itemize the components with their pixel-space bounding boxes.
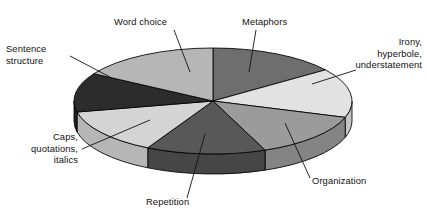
slice-label-sentence-structure: Sentencestructure [6,43,46,66]
slice-label-line: Word choice [114,16,167,27]
slice-label-line: Repetition [146,196,189,207]
slice-label-line: hyperbole, [377,48,422,59]
slice-label-line: Organization [312,175,366,186]
slice-label-line: structure [6,55,43,66]
leader-line-sentence-structure [70,56,110,77]
pie-top-slices: MetaphorsIrony, hyperbole, understatemen… [74,48,352,154]
slice-label-irony-hyperbole-understatement: Irony,hyperbole,understatement [355,36,422,70]
slice-label-repetition: Repetition [146,196,189,207]
slice-label-word-choice: Word choice [114,16,167,27]
slice-label-line: understatement [355,59,422,70]
slice-label-metaphors: Metaphors [242,16,287,27]
slice-label-line: quotations, [31,143,78,154]
slice-label-line: italics [54,154,78,165]
slice-label-line: Sentence [6,43,46,54]
slice-label-line: Irony, [399,36,422,47]
slice-label-caps-quotations-italics: Caps,quotations,italics [31,131,78,165]
pie-chart-figure: MetaphorsIrony, hyperbole, understatemen… [0,0,427,215]
slice-label-line: Metaphors [242,16,287,27]
slice-label-line: Caps, [53,131,78,142]
pie-chart-svg: MetaphorsIrony, hyperbole, understatemen… [0,0,427,215]
slice-label-organization: Organization [312,175,366,186]
